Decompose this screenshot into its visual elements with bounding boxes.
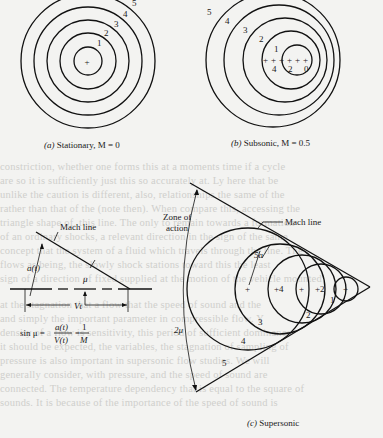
- ring-label-5: 5: [132, 0, 137, 8]
- region-label-5: 5: [222, 358, 227, 368]
- svg-text:+: +: [263, 55, 268, 65]
- mu-label: μ: [82, 274, 88, 284]
- source-positions: + + + + + +: [263, 55, 308, 65]
- region-label-4: 4: [241, 336, 246, 346]
- upper-mach-line: [190, 183, 370, 287]
- svg-text:+: +: [279, 55, 284, 65]
- ring-label-4: 4: [123, 9, 128, 19]
- center-label-2: +2: [315, 284, 325, 294]
- center-marker: +: [245, 284, 250, 294]
- wave-ring-3: [243, 18, 327, 102]
- zone-label: Zone of: [163, 212, 191, 222]
- ring-label-2: 2: [259, 34, 264, 44]
- center-marker: +: [343, 284, 348, 294]
- source-marker: +: [85, 57, 90, 67]
- ring-label-4: 4: [225, 16, 230, 26]
- arrow-head: [40, 243, 44, 249]
- ring-label-3: 3: [114, 19, 119, 29]
- svg-text:a(t): a(t): [55, 322, 68, 332]
- zone-label: action: [166, 223, 188, 233]
- mach-wave-figure: + 1 2 3 4 5 (a) Stationary, M = 0 + + + …: [0, 0, 383, 438]
- ring-label-2: 2: [104, 28, 109, 38]
- panel-c-supersonic: + +4 + +2 + 5a 1 2 3 4 5 2μ Mach line Zo…: [163, 183, 370, 428]
- panel-c-caption: (c) Supersonic: [247, 418, 299, 428]
- position-label-2: 2: [288, 64, 293, 74]
- svg-text:M: M: [79, 335, 88, 345]
- panel-a-caption: (a) Stationary, M = 0: [44, 140, 120, 150]
- vt-label: Vt: [74, 301, 82, 311]
- center-label-4: +4: [274, 284, 284, 294]
- region-label-1: 1: [330, 295, 335, 305]
- mach-angle-inset: Mach line a(t) μ Vt sin μ = a(t) V(t) = …: [10, 222, 152, 345]
- svg-text:V(t): V(t): [54, 335, 68, 345]
- svg-text:1: 1: [82, 322, 87, 332]
- panel-b-subsonic: + + + + + + 4 2 0 1 2 3 4 5 (b) Subsonic…: [206, 0, 340, 148]
- region-label-2: 2: [306, 310, 311, 320]
- svg-text:sin μ =: sin μ =: [20, 328, 45, 338]
- position-label-0: 0: [304, 64, 309, 74]
- inset-mach-line-label: Mach line: [60, 222, 96, 232]
- ring-label-1: 1: [274, 44, 279, 54]
- panel-a-stationary: + 1 2 3 4 5 (a) Stationary, M = 0: [21, 0, 155, 150]
- ring-label-1: 1: [97, 38, 102, 48]
- svg-text:+: +: [295, 55, 300, 65]
- center-marker: +: [299, 284, 304, 294]
- radius-label: 5a: [254, 250, 264, 260]
- angle-label: 2μ: [174, 325, 184, 335]
- region-label-3: 3: [258, 317, 263, 327]
- a-t-label: a(t): [27, 263, 40, 273]
- panel-b-caption: (b) Subsonic, M = 0.5: [231, 138, 311, 148]
- ring-label-5: 5: [207, 7, 212, 17]
- position-label-4: 4: [272, 64, 277, 74]
- mach-line-label: Mach line: [285, 217, 321, 227]
- ring-label-3: 3: [243, 25, 248, 35]
- mach-angle-formula: sin μ = a(t) V(t) = 1 M: [20, 322, 89, 345]
